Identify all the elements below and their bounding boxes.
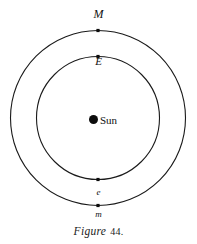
figure-container: M E e m Sun Figure44. [0, 0, 197, 244]
orbit-point-marker-e [96, 178, 99, 181]
figure-caption: Figure44. [0, 226, 197, 238]
orbit-point-marker-M [96, 29, 99, 32]
inner-orbit-upper-label: E [0, 56, 197, 67]
sun-dot-icon [89, 115, 98, 124]
inner-orbit-lower-label: e [0, 188, 197, 197]
sun-label: Sun [100, 115, 117, 126]
orbit-point-marker-m [96, 204, 99, 207]
figure-caption-word: Figure [74, 225, 107, 237]
outer-orbit-upper-label: M [0, 8, 197, 20]
figure-caption-number: 44. [110, 226, 123, 237]
sun-marker-group: Sun [89, 114, 117, 125]
outer-orbit-lower-label: m [0, 210, 197, 219]
